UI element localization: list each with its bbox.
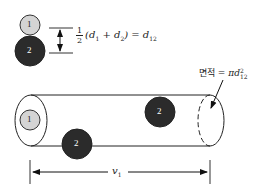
cylinder-molecule-2-inside-label: 2 (157, 106, 162, 116)
area-label: 면적 = πd212 (199, 66, 248, 80)
formula-part-d1: (d (85, 29, 95, 40)
d12-formula: 1 2 (d1 + d2) = d12 (76, 26, 157, 45)
formula-part-d12: ) = d (124, 29, 149, 40)
velocity-subscript: 1 (118, 171, 122, 178)
collision-cylinder (15, 95, 224, 146)
velocity-label: v1 (112, 165, 121, 178)
area-pointer-arrow (211, 80, 223, 108)
area-subscript: 12 (240, 74, 248, 80)
area-word: 면적 (199, 68, 215, 78)
distance-bracket (49, 28, 73, 53)
area-expression: = πd (215, 68, 240, 78)
area-sup-sub: 212 (240, 68, 248, 80)
cylinder-dashed-cross-section (198, 95, 210, 146)
fraction-numerator: 1 (76, 26, 83, 36)
molecule-2-label: 2 (27, 45, 32, 55)
fraction-denominator: 2 (76, 36, 83, 45)
cylinder-molecule-2-boundary-label: 2 (74, 138, 79, 148)
formula-sub-12: 12 (149, 35, 157, 42)
cylinder-right-cap (210, 95, 224, 146)
cylinder-molecule-1-label: 1 (27, 114, 32, 124)
half-fraction: 1 2 (76, 26, 83, 45)
molecule-1-label: 1 (27, 19, 32, 29)
formula-part-d2: + d (99, 29, 120, 40)
